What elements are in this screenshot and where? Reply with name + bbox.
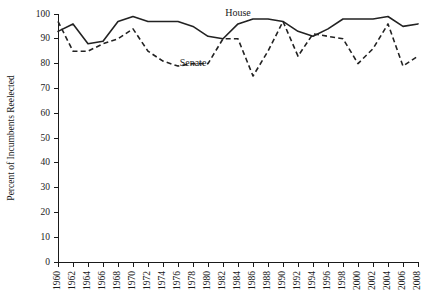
x-axis-tick-label: 1984 <box>232 271 242 290</box>
x-axis-tick-label: 2002 <box>367 271 377 290</box>
x-axis-tick-label: 1992 <box>292 271 302 290</box>
x-axis-tick-label: 1994 <box>307 271 317 290</box>
x-axis-tick-label: 1980 <box>202 271 212 290</box>
y-axis-tick-label: 0 <box>45 257 50 267</box>
x-axis-tick-label: 1990 <box>277 271 287 290</box>
x-axis-tick-label: 1976 <box>172 271 182 290</box>
reelection-rate-line-chart: 0102030405060708090100 19601962196419661… <box>0 0 428 308</box>
y-axis-tick-label: 30 <box>41 182 51 192</box>
x-axis-tick-label: 1978 <box>187 271 197 290</box>
y-axis-tick-label: 100 <box>36 9 51 19</box>
x-axis-tick-label: 1986 <box>247 271 257 290</box>
y-axis-tick-label: 40 <box>41 157 51 167</box>
x-axis-tick-label: 1988 <box>262 271 272 290</box>
x-axis-tick-label: 2000 <box>352 271 362 290</box>
x-axis-tick-label: 1970 <box>127 271 137 290</box>
x-axis-tick-label: 1996 <box>322 271 332 290</box>
x-axis-tick-label: 1998 <box>337 271 347 290</box>
x-axis-tick-label: 1966 <box>97 271 107 290</box>
x-axis-tick-label: 1974 <box>157 271 167 290</box>
y-axis-title: Percent of Incumbents Reelected <box>6 75 16 201</box>
chart-figure: 0102030405060708090100 19601962196419661… <box>0 0 428 308</box>
y-axis-tick-label: 90 <box>41 33 51 43</box>
x-axis-tick-labels: 1960196219641966196819701972197419761978… <box>52 271 422 290</box>
x-axis-tick-label: 2006 <box>397 271 407 290</box>
x-axis-tick-label: 1982 <box>217 271 227 290</box>
x-axis-tick-label: 1972 <box>142 271 152 290</box>
y-axis-tick-label: 50 <box>41 133 51 143</box>
x-axis-tick-label: 1964 <box>82 271 92 290</box>
chart-axes <box>58 14 418 262</box>
house-series-label: House <box>225 7 251 18</box>
y-axis-ticks <box>54 14 58 262</box>
y-axis-tick-label: 20 <box>41 207 51 217</box>
x-axis-ticks <box>58 262 418 267</box>
y-axis-tick-label: 60 <box>41 108 51 118</box>
x-axis-tick-label: 1962 <box>67 271 77 290</box>
y-axis-tick-label: 70 <box>41 83 51 93</box>
y-axis-tick-label: 80 <box>41 58 51 68</box>
x-axis-tick-label: 1968 <box>112 271 122 290</box>
x-axis-tick-label: 1960 <box>52 271 62 290</box>
y-axis-tick-label: 10 <box>41 232 51 242</box>
senate-series-label: Senate <box>180 57 207 68</box>
x-axis-tick-label: 2004 <box>382 271 392 290</box>
y-axis-tick-labels: 0102030405060708090100 <box>36 9 51 267</box>
x-axis-tick-label: 2008 <box>412 271 422 290</box>
